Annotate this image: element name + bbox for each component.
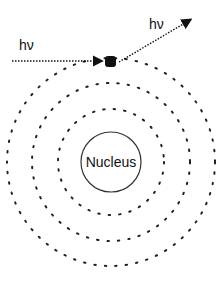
nucleus-label: Nucleus <box>80 154 142 170</box>
outgoing-photon-label: hν <box>149 16 164 32</box>
incoming-photon-label: hν <box>19 37 34 53</box>
electron <box>105 56 116 67</box>
